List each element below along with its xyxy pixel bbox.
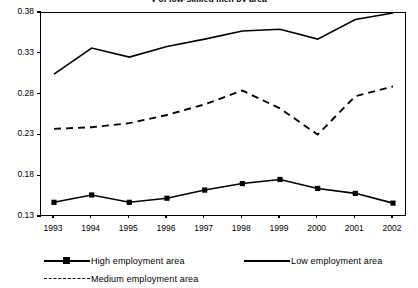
data-point-marker xyxy=(202,187,207,192)
x-tick-label: 2001 xyxy=(334,223,374,233)
legend-entry-low[interactable]: Low employment area xyxy=(244,251,382,269)
legend-label-high: High employment area xyxy=(91,256,185,266)
x-tick-label: 1993 xyxy=(33,223,73,233)
x-tick-label: 1999 xyxy=(259,223,299,233)
data-point-marker xyxy=(240,181,245,186)
chart-figure: y of low-skilled men by area 0.380.330.2… xyxy=(0,0,418,288)
data-point-marker xyxy=(164,196,169,201)
legend-label-low: Low employment area xyxy=(291,256,382,266)
x-tick-label: 1995 xyxy=(108,223,148,233)
legend-swatch-medium-employment xyxy=(44,274,90,284)
legend-label-medium: Medium employment area xyxy=(91,274,198,284)
data-point-marker xyxy=(353,191,358,196)
x-tick-label: 1997 xyxy=(184,223,224,233)
legend-swatch-high-employment xyxy=(44,256,90,266)
y-tick-label: 0.38 xyxy=(0,6,34,16)
legend-entry-high[interactable]: High employment area xyxy=(44,251,185,269)
data-point-marker xyxy=(51,200,56,205)
x-tick-label: 2000 xyxy=(297,223,337,233)
y-tick-label: 0.18 xyxy=(0,169,34,179)
x-tick-label: 1994 xyxy=(71,223,111,233)
data-point-marker xyxy=(390,201,395,206)
x-tick-label: 2002 xyxy=(372,223,412,233)
chart-legend: High employment area Medium employment a… xyxy=(0,247,418,288)
y-tick-label: 0.33 xyxy=(0,47,34,57)
y-tick-label: 0.28 xyxy=(0,88,34,98)
x-tick-label: 1998 xyxy=(221,223,261,233)
chart-title: y of low-skilled men by area xyxy=(0,0,418,2)
x-tick-label: 1996 xyxy=(146,223,186,233)
data-point-marker xyxy=(277,177,282,182)
legend-swatch-low-employment xyxy=(244,256,290,266)
legend-entry-medium[interactable]: Medium employment area xyxy=(44,269,198,287)
y-tick-label: 0.23 xyxy=(0,128,34,138)
data-point-marker xyxy=(89,192,94,197)
data-point-marker xyxy=(315,186,320,191)
y-tick-label: 0.13 xyxy=(0,210,34,220)
data-point-marker xyxy=(127,200,132,205)
plot-area xyxy=(40,12,406,216)
plot-lines xyxy=(41,13,407,217)
series-line-low-employment-area xyxy=(54,13,393,74)
series-line-medium-employment-area xyxy=(54,86,393,134)
series-line-high-employment-area xyxy=(54,179,393,203)
